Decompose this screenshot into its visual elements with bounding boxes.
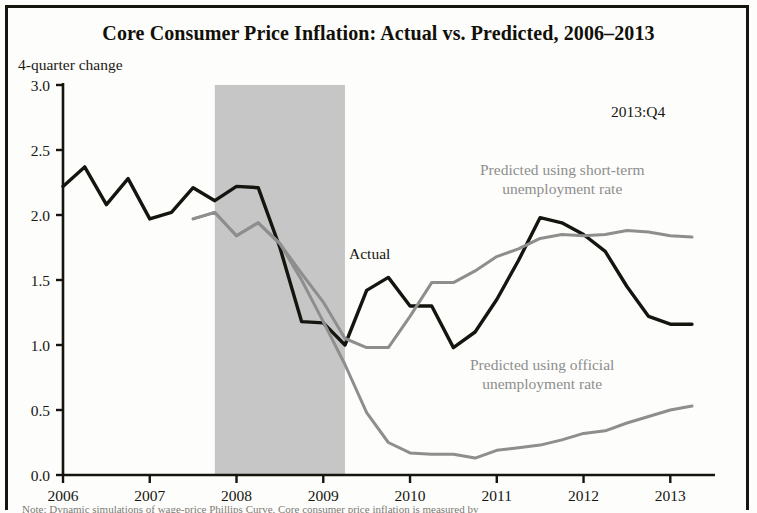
y-tick-label: 2.5: [31, 142, 51, 159]
x-tick-label: 2008: [221, 487, 252, 504]
figure-note: Note: Dynamic simulations of wage-price …: [22, 503, 737, 513]
series-label-predicted-short-term: Predicted using short-term unemployment …: [480, 160, 644, 199]
y-tick-label: 3.0: [31, 77, 51, 94]
y-tick-label: 2.0: [31, 207, 51, 224]
y-tick-label: 0.5: [31, 402, 51, 419]
series-label-short-line1: Predicted using short-term: [480, 161, 644, 178]
series-label-official-line1: Predicted using official: [470, 356, 614, 373]
series-label-actual: Actual: [349, 245, 390, 263]
series-label-predicted-official: Predicted using official unemployment ra…: [470, 355, 614, 394]
figure-container: Core Consumer Price Inflation: Actual vs…: [0, 0, 757, 513]
x-tick-label: 2006: [48, 487, 79, 504]
recession-shading: [215, 85, 345, 475]
x-tick-label: 2010: [395, 487, 426, 504]
x-tick-label: 2012: [568, 487, 599, 504]
x-tick-label: 2007: [134, 487, 165, 504]
y-tick-label: 0.0: [31, 467, 51, 484]
x-tick-label: 2009: [308, 487, 339, 504]
x-tick-label: 2011: [482, 487, 512, 504]
x-tick-label: 2013: [655, 487, 686, 504]
y-tick-label: 1.0: [31, 337, 51, 354]
y-tick-label: 1.5: [31, 272, 51, 289]
series-label-official-line2: unemployment rate: [482, 375, 602, 392]
series-label-short-line2: unemployment rate: [502, 180, 622, 197]
